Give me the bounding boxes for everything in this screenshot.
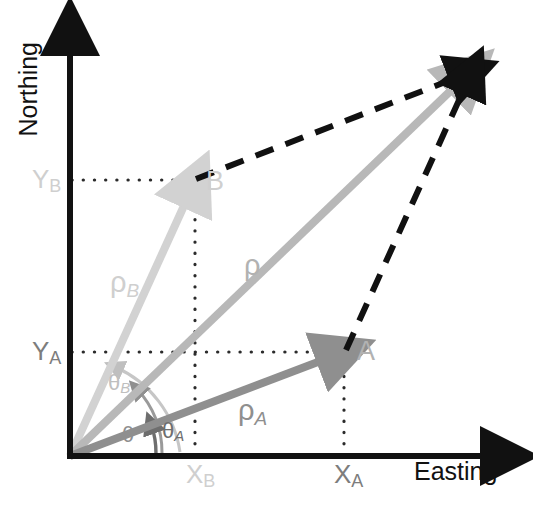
vector-label-rho-b-sub: B <box>127 280 140 301</box>
angle-label-theta-a-base: θ <box>162 418 174 443</box>
tick-label-x-a: XA <box>334 461 363 487</box>
vector-label-rho-a-base: ρ <box>238 394 255 426</box>
dashed-line-a-to-resultant <box>346 78 469 350</box>
diagram-canvas <box>0 0 533 524</box>
vector-label-rho-a: ρA <box>238 396 267 425</box>
tick-label-x-b: XB <box>186 461 215 487</box>
vector-rho <box>70 76 466 456</box>
tick-label-x-a-sub: A <box>351 471 363 491</box>
tick-label-x-b-base: X <box>186 459 203 489</box>
tick-label-x-b-sub: B <box>203 471 215 491</box>
vector-label-rho: ρ <box>244 251 261 280</box>
angle-label-theta-b-sub: B <box>120 379 130 396</box>
tick-label-y-a-base: Y <box>32 336 49 366</box>
vector-label-rho-b: ρB <box>110 268 139 297</box>
x-axis-label: Easting <box>414 459 497 484</box>
angle-label-theta-base: θ <box>122 422 134 447</box>
vector-rho-shaft <box>70 76 466 456</box>
tick-label-y-b-base: Y <box>32 164 49 194</box>
vector-label-rho-b-base: ρ <box>110 266 127 298</box>
vector-label-rho-a-sub: A <box>255 408 268 429</box>
angle-label-theta: θ <box>122 424 134 446</box>
vector-label-rho-base: ρ <box>244 249 261 281</box>
angle-label-theta-a: θA <box>162 420 184 442</box>
angle-label-theta-a-sub: A <box>174 427 184 444</box>
tick-label-y-b-sub: B <box>49 176 61 196</box>
tick-label-y-a-sub: A <box>49 348 61 368</box>
angle-label-theta-b: θB <box>108 372 130 394</box>
vector-diagram: Northing Easting YB YA XB XA A B ρ ρA ρB… <box>0 0 533 524</box>
tick-label-y-b: YB <box>32 166 61 192</box>
y-axis-label: Northing <box>16 42 41 137</box>
tick-label-x-a-base: X <box>334 459 351 489</box>
dashed-line-b-to-resultant <box>196 74 466 179</box>
tick-label-y-a: YA <box>32 338 61 364</box>
angle-label-theta-b-base: θ <box>108 370 120 395</box>
point-label-b: B <box>206 168 224 195</box>
point-label-a: A <box>357 338 375 365</box>
